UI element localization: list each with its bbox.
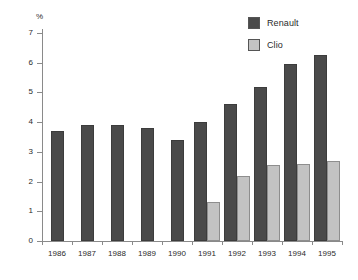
legend-label-renault: Renault	[267, 18, 299, 28]
x-axis-label-1988: 1988	[102, 249, 132, 258]
bar-renault-1987	[81, 125, 94, 241]
bar-clio-1992	[237, 176, 250, 241]
y-axis-tick-label: 4	[29, 116, 33, 127]
x-axis-tick	[162, 241, 163, 245]
bar-renault-1990	[171, 140, 184, 241]
x-axis-tick	[72, 241, 73, 245]
bar-clio-1995	[327, 161, 340, 241]
y-axis-tick-label: 3	[29, 146, 33, 157]
y-axis-tick: 4	[37, 122, 42, 123]
legend-swatch-renault	[248, 17, 260, 29]
y-axis-tick-label: 5	[29, 86, 33, 97]
bar-clio-1993	[267, 165, 280, 241]
bar-renault-1986	[51, 131, 64, 241]
legend-item-renault: Renault	[248, 12, 356, 34]
x-axis-tick	[312, 241, 313, 245]
bar-clio-1991	[207, 202, 220, 241]
x-axis-tick	[102, 241, 103, 245]
y-axis-tick: 3	[37, 152, 42, 153]
plot-area: 01234567 1986198719881989199019911992199…	[42, 33, 342, 241]
bar-clio-1994	[297, 164, 310, 241]
bar-renault-1994	[284, 64, 297, 241]
x-axis-label-1986: 1986	[42, 249, 72, 258]
x-axis-label-1992: 1992	[222, 249, 252, 258]
y-axis-tick: 1	[37, 211, 42, 212]
x-axis-label-1993: 1993	[252, 249, 282, 258]
x-axis-tick	[42, 241, 43, 245]
y-axis-tick: 2	[37, 182, 42, 183]
y-axis-tick-label: 1	[29, 205, 33, 216]
x-axis-label-1991: 1991	[192, 249, 222, 258]
y-axis-tick-label: 6	[29, 57, 33, 68]
x-axis-tick	[132, 241, 133, 245]
x-axis-tick	[252, 241, 253, 245]
y-axis-line	[42, 29, 43, 242]
bar-renault-1989	[141, 128, 154, 241]
y-axis-tick-label: 0	[29, 235, 33, 246]
bar-renault-1995	[314, 55, 327, 241]
y-axis-tick: 5	[37, 92, 42, 93]
y-axis-unit-label: %	[36, 12, 43, 21]
y-axis-tick-label: 7	[29, 27, 33, 38]
y-axis-tick: 7	[37, 33, 42, 34]
bar-renault-1991	[194, 122, 207, 241]
x-axis-tick	[192, 241, 193, 245]
x-axis-label-1995: 1995	[312, 249, 342, 258]
x-axis-tick	[222, 241, 223, 245]
x-axis-label-1989: 1989	[132, 249, 162, 258]
y-axis-tick: 6	[37, 63, 42, 64]
x-axis-tick	[342, 241, 343, 245]
x-axis-tick	[282, 241, 283, 245]
x-axis-label-1994: 1994	[282, 249, 312, 258]
bar-chart: % Renault Clio 01234567 1986198719881989…	[0, 0, 358, 280]
bar-renault-1993	[254, 87, 267, 242]
x-axis-label-1990: 1990	[162, 249, 192, 258]
bar-renault-1988	[111, 125, 124, 241]
x-axis-label-1987: 1987	[72, 249, 102, 258]
y-axis-tick-label: 2	[29, 176, 33, 187]
x-axis-line	[37, 241, 342, 242]
bar-renault-1992	[224, 104, 237, 241]
